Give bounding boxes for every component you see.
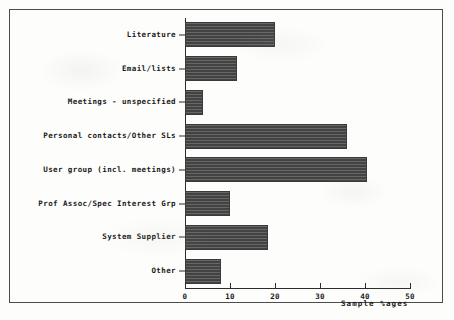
x-axis-tick xyxy=(185,283,186,288)
y-axis-tick xyxy=(179,169,185,170)
bar xyxy=(185,90,203,115)
y-axis-tick xyxy=(179,237,185,238)
y-axis-tick xyxy=(179,34,185,35)
bar xyxy=(185,22,275,47)
bar-chart-plot: LiteratureEmail/listsMeetings - unspecif… xyxy=(0,0,454,320)
x-axis-tick-label: 30 xyxy=(315,292,325,301)
x-axis-tick xyxy=(230,283,231,288)
bar xyxy=(185,259,221,284)
category-label: Email/lists xyxy=(122,65,176,73)
category-label: User group (incl. meetings) xyxy=(43,166,176,174)
y-axis-tick xyxy=(179,102,185,103)
x-axis-tick-label: 20 xyxy=(270,292,280,301)
x-axis-tick xyxy=(365,283,366,288)
category-label: Meetings - unspecified xyxy=(68,99,176,107)
x-axis-line xyxy=(185,288,411,289)
category-label: Prof Assoc/Spec Interest Grp xyxy=(38,200,176,208)
category-label: Literature xyxy=(127,31,176,39)
x-axis-label: Sample %ages xyxy=(341,299,408,308)
x-axis-tick xyxy=(410,283,411,288)
x-axis-tick xyxy=(320,283,321,288)
category-label: System Supplier xyxy=(102,234,176,242)
chart-page: LiteratureEmail/listsMeetings - unspecif… xyxy=(0,0,454,320)
bar xyxy=(185,225,268,250)
bar xyxy=(185,157,367,182)
y-axis-tick xyxy=(179,136,185,137)
category-label: Other xyxy=(151,267,176,275)
bar xyxy=(185,191,230,216)
y-axis-tick xyxy=(179,271,185,272)
x-axis-tick xyxy=(275,283,276,288)
category-label: Personal contacts/Other SLs xyxy=(43,132,176,140)
x-axis-tick-label: 10 xyxy=(225,292,235,301)
bar xyxy=(185,124,347,149)
x-axis-tick-label: 0 xyxy=(183,292,188,301)
y-axis-tick xyxy=(179,203,185,204)
y-axis-tick xyxy=(179,68,185,69)
bar xyxy=(185,56,237,81)
